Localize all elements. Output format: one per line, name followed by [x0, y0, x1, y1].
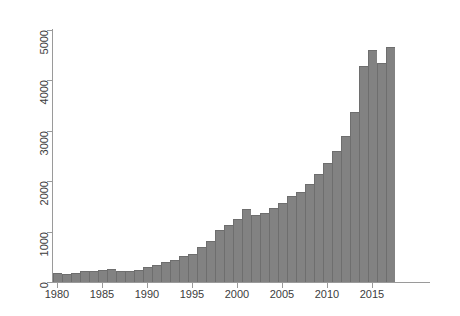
x-tick-label: 1985	[82, 288, 122, 300]
plot-area	[53, 20, 428, 282]
bar	[80, 271, 89, 282]
bar	[305, 184, 314, 282]
bar	[53, 273, 62, 282]
bars-layer	[53, 20, 428, 282]
bar	[341, 136, 350, 282]
bar	[386, 47, 395, 282]
bar	[377, 63, 386, 282]
x-tick-label: 2005	[262, 288, 302, 300]
bar	[332, 151, 341, 282]
bar	[134, 270, 143, 282]
bar	[359, 66, 368, 282]
bar	[116, 271, 125, 282]
bar	[107, 269, 116, 282]
bar	[188, 254, 197, 282]
bar	[98, 270, 107, 282]
x-tick-label: 2015	[352, 288, 392, 300]
y-tick-label: 5000	[37, 30, 51, 54]
bar	[251, 215, 260, 282]
bar	[314, 174, 323, 282]
bar	[242, 209, 251, 282]
bar	[296, 192, 305, 282]
bar	[170, 260, 179, 282]
y-tick-label: 3000	[37, 131, 51, 155]
bar	[152, 265, 161, 282]
bar	[179, 256, 188, 282]
y-tick-label: 4000	[37, 80, 51, 104]
bar	[89, 271, 98, 282]
bar	[323, 163, 332, 282]
bar	[269, 208, 278, 282]
y-tick-label: 2000	[37, 181, 51, 205]
bar-chart: 010002000300040005000 198019851990199520…	[0, 0, 460, 316]
bar	[143, 267, 152, 282]
bar	[233, 219, 242, 282]
bar	[125, 271, 134, 282]
x-tick-label: 1980	[37, 288, 77, 300]
bar	[206, 241, 215, 282]
bar	[368, 50, 377, 282]
x-tick-label: 2000	[217, 288, 257, 300]
x-axis-line	[52, 282, 430, 283]
bar	[62, 274, 71, 282]
x-tick-label: 1990	[127, 288, 167, 300]
bar	[71, 273, 80, 282]
bar	[215, 230, 224, 282]
y-tick-label: 1000	[37, 232, 51, 256]
bar	[260, 213, 269, 282]
x-tick-label: 1995	[172, 288, 212, 300]
bar	[161, 262, 170, 282]
bar	[287, 196, 296, 282]
bar	[350, 112, 359, 282]
bar	[278, 203, 287, 282]
bar	[224, 225, 233, 282]
x-tick-label: 2010	[307, 288, 347, 300]
bar	[197, 247, 206, 282]
